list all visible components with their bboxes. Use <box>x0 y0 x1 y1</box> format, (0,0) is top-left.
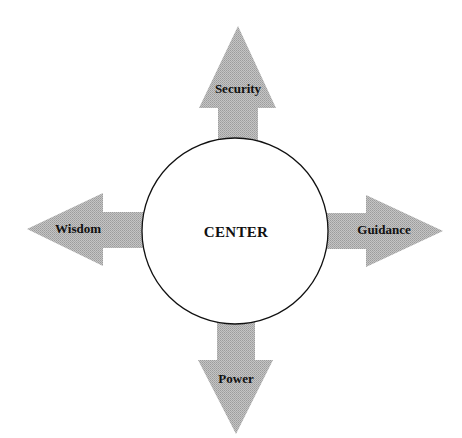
arrow-label-guidance: Guidance <box>357 223 410 236</box>
arrow-label-power: Power <box>218 372 253 385</box>
center-label: CENTER <box>204 225 268 240</box>
arrow-label-security: Security <box>215 82 261 95</box>
diagram-canvas: CENTER Security Wisdom Guidance Power <box>0 0 462 438</box>
arrow-label-wisdom: Wisdom <box>55 222 101 235</box>
